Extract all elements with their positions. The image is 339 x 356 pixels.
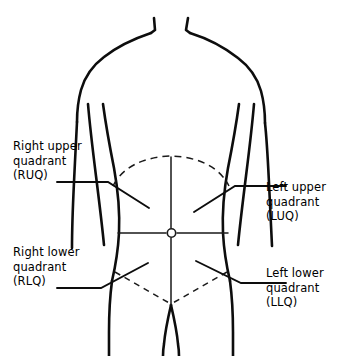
torso-flank-left xyxy=(103,104,119,281)
label-llq-line1: Left lower xyxy=(266,266,324,281)
label-luq-line2: quadrant xyxy=(266,195,326,210)
label-ruq-line2: quadrant xyxy=(13,154,82,169)
label-llq-line2: quadrant xyxy=(266,281,324,296)
inguinal-line-right xyxy=(171,272,227,304)
inner-thigh-left xyxy=(163,305,171,356)
leader-line-ruq xyxy=(57,182,149,208)
label-rlq-line3: (RLQ) xyxy=(13,274,79,289)
neck-left xyxy=(151,18,155,33)
hip-thigh-right-outer xyxy=(230,281,233,356)
label-luq-line3: (LUQ) xyxy=(266,209,326,224)
label-right-upper-quadrant: Right upper quadrant (RUQ) xyxy=(13,139,82,183)
hip-thigh-left-outer xyxy=(109,281,112,356)
label-rlq-line1: Right lower xyxy=(13,245,79,260)
label-ruq-line3: (RUQ) xyxy=(13,168,82,183)
label-rlq-line2: quadrant xyxy=(13,260,79,275)
neck-right xyxy=(186,18,190,33)
body-outline xyxy=(72,18,272,356)
label-llq-line3: (LLQ) xyxy=(266,295,324,310)
label-ruq-line1: Right upper xyxy=(13,139,82,154)
diagram-page: Right upper quadrant (RUQ) Right lower q… xyxy=(0,0,339,356)
label-luq-line1: Left upper xyxy=(266,180,326,195)
arm-left-inner xyxy=(88,104,104,245)
umbilicus-marker xyxy=(167,229,175,237)
arm-right-inner xyxy=(238,104,254,245)
label-left-upper-quadrant: Left upper quadrant (LUQ) xyxy=(266,180,326,224)
label-left-lower-quadrant: Left lower quadrant (LLQ) xyxy=(266,266,324,310)
label-right-lower-quadrant: Right lower quadrant (RLQ) xyxy=(13,245,79,289)
inner-thigh-right xyxy=(171,305,179,356)
